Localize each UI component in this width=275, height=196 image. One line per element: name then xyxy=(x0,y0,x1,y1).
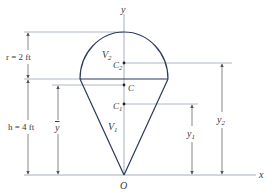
centroid-c-dot xyxy=(123,84,126,87)
centroid-c1-dot xyxy=(123,103,126,106)
y2-dimension-label: y2 xyxy=(216,114,225,127)
origin-label: O xyxy=(120,180,127,191)
centroid-c2-label: C2 xyxy=(113,60,123,71)
composite-body-diagram: y x O V2 V1 C2 C C1 r = 2 ft h = 4 ft y … xyxy=(0,0,275,196)
axes xyxy=(24,14,256,175)
extension-lines xyxy=(24,32,232,104)
hemisphere-volume-label: V2 xyxy=(102,49,112,62)
height-dimension-label: h = 4 ft xyxy=(8,122,35,132)
centroid-c1-label: C1 xyxy=(113,101,122,112)
cone-volume-label: V1 xyxy=(108,121,118,134)
x-axis-label: x xyxy=(258,169,264,180)
ybar-dimension-label: y xyxy=(54,122,60,133)
radius-dimension-label: r = 2 ft xyxy=(6,52,31,62)
y1-dimension-label: y1 xyxy=(186,128,195,141)
centroid-c-label: C xyxy=(128,83,135,93)
centroid-c2-dot xyxy=(123,62,126,65)
y-axis-label: y xyxy=(120,4,126,15)
